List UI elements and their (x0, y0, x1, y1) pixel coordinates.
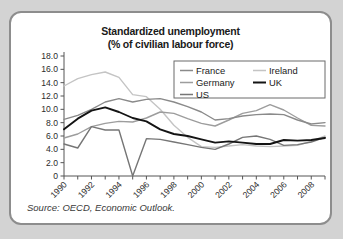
source-note: Source: OECD, Economic Outlook. (27, 202, 175, 213)
y-tick-label: 10.0 (41, 104, 58, 114)
x-tick-label: 2006 (268, 179, 289, 200)
x-tick-label: 1998 (158, 179, 179, 200)
legend-label-us[interactable]: US (196, 89, 209, 100)
legend-label-france[interactable]: France (196, 65, 225, 76)
legend-label-ireland[interactable]: Ireland (269, 65, 298, 76)
series-line-uk (64, 107, 325, 144)
legend-label-uk[interactable]: UK (269, 77, 283, 88)
x-tick-label: 2004 (241, 179, 262, 200)
series-line-us (64, 127, 325, 176)
x-tick-label: 2008 (296, 179, 317, 200)
y-tick-label: 8.0 (46, 118, 58, 128)
x-tick-label: 2002 (213, 179, 234, 200)
plot-area: 02.04.06.08.010.012.014.016.018.01990199… (11, 13, 332, 225)
y-tick-label: 12.0 (41, 91, 58, 101)
x-tick-label: 1994 (103, 179, 124, 200)
y-tick-label: 2.0 (46, 158, 58, 168)
legend-label-germany[interactable]: Germany (196, 77, 235, 88)
x-tick-label: 1996 (131, 179, 152, 200)
y-tick-label: 14.0 (41, 78, 58, 88)
figure-card: Standardized unemployment (% of civilian… (9, 11, 332, 225)
y-tick-label: 18.0 (41, 51, 58, 61)
x-tick-label: 1992 (76, 179, 97, 200)
y-tick-label: 0 (53, 171, 58, 181)
x-tick-label: 1990 (48, 179, 69, 200)
x-tick-label: 2000 (186, 179, 207, 200)
y-tick-label: 4.0 (46, 144, 58, 154)
y-tick-label: 6.0 (46, 131, 58, 141)
line-chart-svg: 02.04.06.08.010.012.014.016.018.01990199… (11, 13, 332, 225)
y-tick-label: 16.0 (41, 64, 58, 74)
